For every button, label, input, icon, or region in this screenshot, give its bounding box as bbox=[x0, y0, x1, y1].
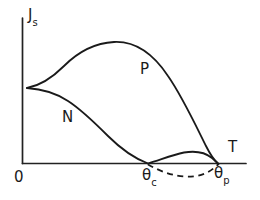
x-axis-label: T bbox=[228, 140, 237, 155]
theta-c-base: θ bbox=[142, 166, 151, 184]
curve-label-p: P bbox=[140, 62, 149, 77]
origin-label: 0 bbox=[14, 170, 24, 185]
curve-lower-lens-dashed bbox=[148, 164, 219, 177]
curve-upper-lens bbox=[148, 152, 218, 164]
x-axis-label-base: T bbox=[228, 138, 237, 156]
curve-label-n: N bbox=[62, 110, 73, 125]
y-axis-label: Js bbox=[28, 8, 38, 26]
theta-p-subscript: p bbox=[223, 175, 229, 186]
curve-n-branch bbox=[27, 88, 148, 164]
y-axis-label-subscript: s bbox=[32, 17, 37, 28]
figure-container: Js T 0 P N θc θp bbox=[0, 0, 260, 200]
theta-p-base: θ bbox=[214, 164, 223, 182]
curve-p-branch bbox=[27, 42, 218, 164]
theta-c-subscript: c bbox=[151, 177, 157, 188]
tick-label-theta-p: θp bbox=[214, 166, 230, 184]
tick-label-theta-c: θc bbox=[142, 168, 157, 186]
